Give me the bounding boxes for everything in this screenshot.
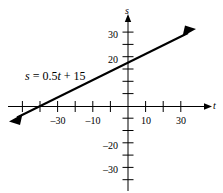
y-tick-label-30: 30 — [96, 30, 118, 40]
x-tick-label-minus-30: –30 — [44, 116, 72, 126]
y-tick-label-minus-30: –30 — [94, 165, 118, 175]
y-axis — [123, 14, 134, 191]
equation-slope: 0.5 — [42, 69, 57, 83]
x-axis-label: t — [213, 101, 216, 111]
x-tick-label-10: 10 — [132, 116, 160, 126]
line-arrowhead-left — [9, 114, 23, 125]
line-arrowhead-right — [183, 26, 197, 37]
x-tick-label-minus-10: –10 — [79, 116, 107, 126]
graph-figure: t s 30 20 –20 –30 –30 –10 10 30 s = 0.5t… — [0, 0, 223, 193]
equation-plus: + — [61, 69, 74, 83]
y-tick-label-minus-20: –20 — [94, 141, 118, 151]
y-axis-label: s — [125, 6, 129, 16]
equation-equals: = — [30, 69, 43, 83]
equation-annotation: s = 0.5t + 15 — [25, 70, 86, 82]
x-axis-arrowhead — [204, 103, 212, 109]
equation-intercept: 15 — [74, 69, 86, 83]
y-tick-label-20: 20 — [96, 55, 118, 65]
x-tick-label-30: 30 — [167, 116, 195, 126]
